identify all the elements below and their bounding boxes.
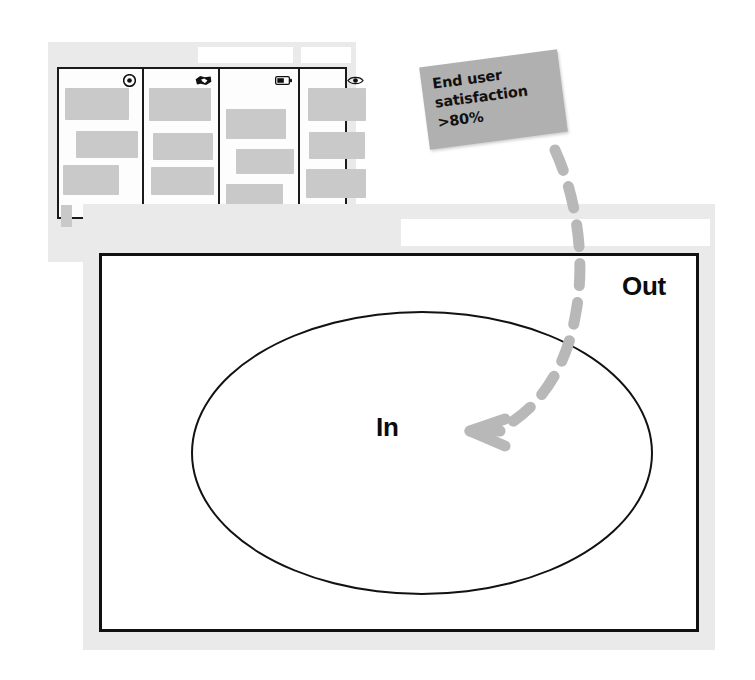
scope-window-header	[83, 204, 715, 252]
board-column-1[interactable]	[59, 69, 144, 217]
board-column-4[interactable]	[300, 69, 370, 217]
board-card[interactable]	[306, 169, 366, 198]
scope-boundary-rectangle	[99, 253, 699, 632]
board-title-placeholder-secondary	[301, 47, 351, 63]
scope-ellipse	[191, 311, 653, 595]
scope-label-in: In	[376, 412, 399, 443]
board-title-placeholder-primary	[198, 47, 293, 63]
sticky-note-text: End user satisfaction >80%	[431, 59, 561, 133]
board-card-partial	[61, 205, 72, 227]
sticky-note[interactable]: End user satisfaction >80%	[419, 49, 568, 149]
board-card[interactable]	[153, 133, 213, 160]
scope-window	[83, 204, 715, 650]
board-card[interactable]	[308, 88, 366, 121]
board-card[interactable]	[151, 167, 214, 195]
board-card[interactable]	[63, 165, 119, 195]
board-column-2[interactable]	[144, 69, 220, 217]
scope-title-placeholder	[401, 219, 710, 246]
board-card[interactable]	[65, 88, 129, 120]
slide-canvas: In Out End user satisfaction >80%	[0, 0, 755, 680]
board-card[interactable]	[236, 149, 294, 174]
board-card[interactable]	[309, 132, 365, 159]
handshake-icon	[148, 72, 214, 88]
scope-label-out: Out	[622, 271, 666, 302]
board-column-3[interactable]	[220, 69, 300, 217]
board-card[interactable]	[226, 109, 286, 139]
battery-icon	[224, 72, 294, 88]
target-icon	[63, 72, 138, 88]
board-window-header	[48, 42, 356, 67]
board-card[interactable]	[149, 88, 211, 121]
board-columns-frame	[57, 67, 347, 219]
board-card[interactable]	[76, 131, 138, 158]
eye-icon	[304, 72, 366, 88]
